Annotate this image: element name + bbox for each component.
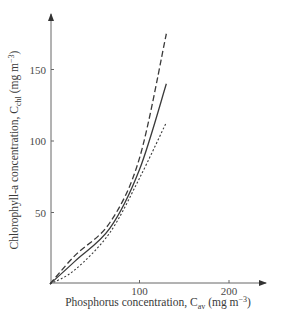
plot-lines	[50, 34, 166, 284]
y-tick-label: 150	[30, 64, 47, 76]
y-axis: 50100150	[30, 14, 55, 284]
y-axis-label: Chlorophyll-a concentration, Cchl (mg m−…	[7, 50, 23, 249]
dashed-line	[50, 34, 166, 284]
solid-line	[50, 84, 166, 284]
chart: 100200 50100150 Phosphorus concentration…	[0, 0, 281, 324]
x-axis-label: Phosphorus concentration, Cav (mg m−3)	[65, 295, 251, 311]
y-tick-label: 100	[30, 135, 47, 147]
x-axis: 100200	[50, 280, 266, 297]
y-tick-label: 50	[35, 207, 47, 219]
dotted-line	[50, 122, 166, 284]
